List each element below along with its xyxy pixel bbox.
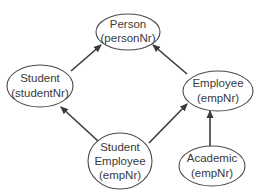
class-hierarchy-diagram: Person (personNr) Student (studentNr) Em… (0, 0, 259, 195)
node-academic-key: (empNr) (191, 167, 233, 179)
node-employee-key: (empNr) (197, 92, 239, 104)
arrow-icon (153, 45, 187, 74)
node-student-employee-name-1: Student (100, 141, 140, 153)
node-student-employee: Student Employee (empNr) (88, 133, 152, 189)
node-employee-name: Employee (192, 77, 243, 89)
edge-employee-to-person (153, 45, 187, 74)
node-person: Person (personNr) (96, 14, 160, 50)
node-student: Student (studentNr) (7, 65, 73, 107)
node-academic-name: Academic (187, 152, 238, 164)
node-student-key: (studentNr) (11, 87, 69, 99)
node-student-name: Student (20, 72, 60, 84)
node-person-name: Person (110, 18, 146, 30)
node-employee: Employee (empNr) (183, 71, 253, 111)
node-student-employee-key: (empNr) (99, 169, 141, 181)
edge-student-to-person (71, 45, 101, 71)
node-student-employee-name-2: Employee (94, 155, 145, 167)
node-person-key: (personNr) (101, 32, 156, 44)
edge-student-employee-to-student (61, 107, 98, 141)
arrow-icon (149, 104, 187, 143)
node-academic: Academic (empNr) (179, 146, 245, 186)
arrow-icon (71, 45, 101, 71)
arrow-icon (61, 107, 98, 141)
edge-student-employee-to-employee (149, 104, 187, 143)
